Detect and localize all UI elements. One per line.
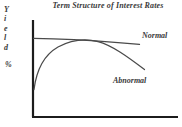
plot-area	[0, 0, 182, 127]
series-label-normal: Normal	[142, 31, 167, 40]
series-label-abnormal: Abnormal	[113, 76, 146, 85]
yield-curve-figure: Term Structure of Interest Rates Y i e l…	[0, 0, 182, 127]
normal-yield-curve	[34, 38, 140, 44]
